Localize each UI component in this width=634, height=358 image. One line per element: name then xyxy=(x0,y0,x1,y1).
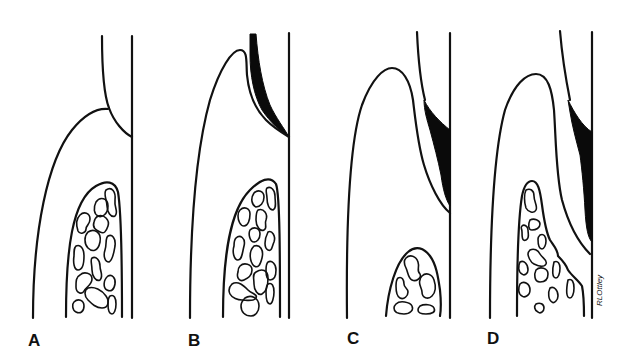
panel-label-d: D xyxy=(487,329,499,348)
panel-a: A xyxy=(28,36,132,350)
panel-label-c: C xyxy=(347,329,359,348)
bone-trabeculae xyxy=(394,256,435,314)
enamel-line xyxy=(102,36,132,137)
bone-trabeculae xyxy=(229,187,276,316)
enamel-line xyxy=(560,31,570,100)
calculus-deposit xyxy=(424,100,450,206)
periodontal-diagram: A B xyxy=(0,0,634,358)
bone-trabeculae xyxy=(519,189,574,313)
gingiva-outline xyxy=(33,109,108,318)
panel-label-b: B xyxy=(188,331,200,350)
enamel-line xyxy=(417,32,425,100)
panel-label-a: A xyxy=(28,331,40,350)
calculus-deposit xyxy=(250,34,289,137)
panel-b: B xyxy=(188,33,289,350)
panel-c: C xyxy=(347,32,450,348)
panel-d: D RLOttley xyxy=(487,31,604,348)
artist-signature: RLOttley xyxy=(595,274,604,306)
calculus-deposit xyxy=(568,100,592,242)
